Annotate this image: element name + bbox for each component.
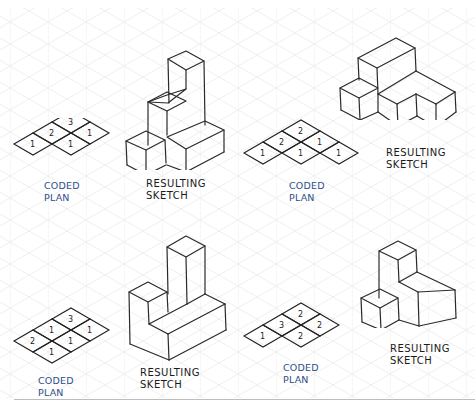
label-line: SKETCH bbox=[140, 379, 200, 391]
label-line: CODED bbox=[44, 180, 80, 192]
plan-cell-value: 2 bbox=[298, 310, 303, 319]
plan-cell-value: 1 bbox=[317, 138, 322, 147]
resulting-sketch-top-left bbox=[120, 45, 235, 170]
label-line: SKETCH bbox=[146, 190, 206, 202]
label-line: PLAN bbox=[283, 374, 319, 386]
plan-cell-value: 2 bbox=[279, 138, 284, 147]
plan-cell-value: 2 bbox=[49, 129, 54, 138]
plan-cell-value: 2 bbox=[298, 332, 303, 341]
plan-cell-value: 1 bbox=[260, 332, 265, 341]
bottom-divider bbox=[14, 399, 475, 400]
plan-cell-value: 3 bbox=[279, 321, 284, 330]
plan-cell-value: 1 bbox=[87, 326, 92, 335]
plan-cell-value: 1 bbox=[68, 140, 73, 149]
plan-cell-value: 3 bbox=[68, 118, 73, 127]
resulting-sketch-bottom-left bbox=[125, 232, 235, 367]
resulting-sketch-label: RESULTING SKETCH bbox=[390, 343, 450, 367]
isometric-sketch-figure: 1 2 3 1 1 CODED PLAN bbox=[0, 0, 475, 409]
coded-plan-top-left: 1 2 3 1 1 bbox=[10, 118, 115, 168]
label-line: RESULTING bbox=[146, 178, 206, 190]
plan-cell-value: 1 bbox=[49, 326, 54, 335]
coded-plan-label: CODED PLAN bbox=[38, 375, 74, 399]
plan-cell-value: 2 bbox=[30, 337, 35, 346]
label-line: PLAN bbox=[44, 192, 80, 204]
plan-cell-value: 1 bbox=[87, 129, 92, 138]
resulting-sketch-label: RESULTING SKETCH bbox=[386, 147, 446, 171]
plan-cell-value: 3 bbox=[68, 315, 73, 324]
plan-cell-value: 1 bbox=[260, 149, 265, 158]
label-line: CODED bbox=[283, 362, 319, 374]
plan-cell-value: 1 bbox=[298, 149, 303, 158]
label-line: CODED bbox=[289, 180, 325, 192]
coded-plan-label: CODED PLAN bbox=[283, 362, 319, 386]
resulting-sketch-label: RESULTING SKETCH bbox=[140, 367, 200, 391]
plan-cell-value: 2 bbox=[317, 321, 322, 330]
coded-plan-label: CODED PLAN bbox=[44, 180, 80, 204]
coded-plan-bottom-right: 1 3 2 2 2 bbox=[240, 300, 355, 355]
coded-plan-top-right: 1 2 2 1 1 1 bbox=[240, 118, 365, 168]
label-line: SKETCH bbox=[390, 355, 450, 367]
resulting-sketch-bottom-right bbox=[355, 218, 475, 328]
resulting-sketch-top-right bbox=[338, 30, 473, 120]
label-line: SKETCH bbox=[386, 159, 446, 171]
plan-cell-value: 1 bbox=[68, 337, 73, 346]
coded-plan-bottom-left: 2 1 3 1 1 1 bbox=[10, 300, 120, 365]
resulting-sketch-label: RESULTING SKETCH bbox=[146, 178, 206, 202]
coded-plan-label: CODED PLAN bbox=[289, 180, 325, 204]
plan-cell-value: 1 bbox=[336, 149, 341, 158]
plan-cell-value: 1 bbox=[49, 348, 54, 357]
plan-cell-value: 1 bbox=[30, 140, 35, 149]
label-line: RESULTING bbox=[390, 343, 450, 355]
label-line: CODED bbox=[38, 375, 74, 387]
plan-cell-value: 2 bbox=[298, 127, 303, 136]
label-line: PLAN bbox=[289, 192, 325, 204]
label-line: RESULTING bbox=[386, 147, 446, 159]
label-line: RESULTING bbox=[140, 367, 200, 379]
label-line: PLAN bbox=[38, 387, 74, 399]
